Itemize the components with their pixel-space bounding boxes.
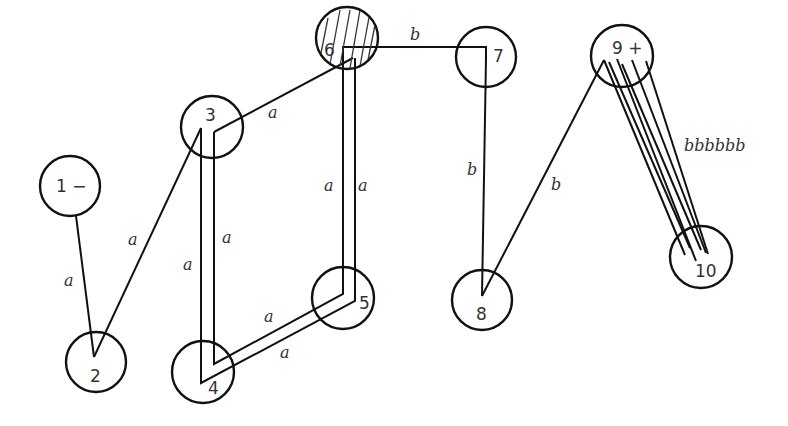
node-4-label: 4	[208, 378, 219, 398]
node-10-label: 10	[695, 261, 717, 281]
node-7[interactable]	[456, 27, 516, 87]
edge-3-6-label: a	[268, 103, 278, 122]
edge-1-2-label: a	[64, 271, 74, 290]
node-6-label: 6	[324, 40, 335, 60]
edge-9-10-label: bbbbbb	[684, 136, 745, 155]
node-4[interactable]	[172, 341, 234, 403]
graph-diagram: 1 − 2 3 4 5 6 7 8 9 + 10 a a a a a a a a…	[0, 0, 788, 426]
node-9-label: 9 +	[612, 38, 642, 58]
edge-3-4-left-label: a	[183, 255, 193, 274]
edge-4-5-bottom-label: a	[280, 343, 290, 362]
edge-8-9	[482, 60, 604, 296]
edge-3-4-right-label: a	[222, 228, 232, 247]
node-1-label: 1 −	[56, 176, 86, 196]
edge-2-3	[94, 128, 201, 357]
edge-4-5-top-label: a	[264, 307, 274, 326]
edge-2-3-label: a	[128, 230, 138, 249]
node-8-label: 8	[476, 304, 487, 324]
node-7-label: 7	[493, 46, 504, 66]
node-2-label: 2	[90, 366, 101, 386]
edge-7-8	[482, 58, 486, 296]
edge-7-8-label: b	[467, 160, 477, 179]
edge-6-7-label: b	[410, 25, 420, 44]
edge-5-6-right-label: a	[358, 176, 368, 195]
nodes	[40, 7, 732, 403]
edge-5-6-left-label: a	[324, 176, 334, 195]
edges	[76, 47, 708, 383]
node-3-label: 3	[205, 105, 216, 125]
edge-8-9-label: b	[551, 175, 561, 194]
node-5-label: 5	[359, 293, 370, 313]
